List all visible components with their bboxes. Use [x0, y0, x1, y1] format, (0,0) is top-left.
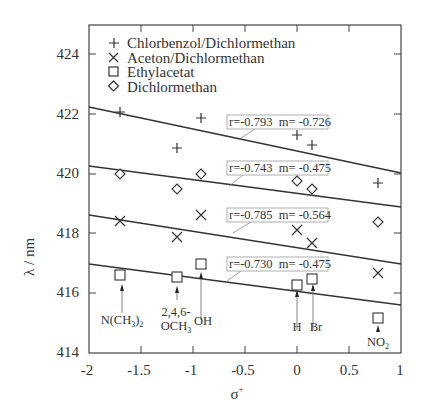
legend-label: Chlorbenzol/Dichlormethan [127, 35, 296, 51]
fit-label-chlorbenzol: r=-0.793 m= -0.726 [229, 115, 331, 129]
fit-label-ethylacetat: r=-0.730 m= -0.475 [229, 257, 331, 271]
legend: Chlorbenzol/Dichlormethan Aceton/Dichlor… [109, 35, 296, 95]
x-marker-icon [109, 53, 118, 62]
label-oh: OH [194, 314, 212, 328]
x-tick-label: -2 [81, 362, 94, 378]
y-axis-label: λ / nm [21, 238, 37, 276]
x-tick-label: 0 [293, 362, 301, 378]
legend-label: Dichlormethan [127, 79, 217, 95]
diamond-marker-icon [109, 81, 119, 91]
x-tick-label: -1 [185, 362, 198, 378]
x-tick-label: 0.5 [340, 362, 359, 378]
arrowheads [120, 272, 380, 332]
label-nme2: N(CH3)2 [101, 313, 144, 329]
label-h: H [292, 320, 301, 334]
y-tick-labels: 424 422 420 418 416 414 [57, 46, 80, 360]
y-tick-label: 416 [57, 284, 80, 300]
label-no2: NO2 [367, 335, 389, 351]
y-tick-label: 420 [57, 165, 80, 181]
label-br: Br [310, 320, 323, 334]
x-axis-label: σ+ [230, 384, 243, 402]
fit-lines [89, 107, 401, 305]
y-tick-label: 422 [57, 106, 80, 122]
fit-label-aceton: r=-0.785 m= -0.564 [229, 208, 332, 222]
y-tick-label: 414 [57, 344, 80, 360]
label-ome-line2: OCH3 [161, 319, 191, 335]
substituent-arrows [122, 276, 313, 330]
x-tick-label: -1.5 [127, 362, 151, 378]
fit-label-dichlormethan: r=-0.743 m= -0.475 [229, 161, 331, 175]
chart: 424 422 420 418 416 414 -2 -1.5 -1 -0.5 … [0, 0, 422, 419]
plus-marker-icon [109, 38, 119, 48]
x-tick-labels: -2 -1.5 -1 -0.5 0 0.5 1 [81, 362, 404, 378]
substituent-labels: N(CH3)2 2,4,6- OCH3 OH H Br NO2 [101, 305, 389, 351]
legend-label: Ethylacetat [127, 64, 195, 80]
x-tick-label: 1 [396, 362, 404, 378]
x-tick-label: -0.5 [231, 362, 255, 378]
square-marker-icon [109, 67, 118, 76]
label-ome-line1: 2,4,6- [161, 305, 190, 319]
y-tick-label: 424 [57, 46, 80, 62]
y-tick-label: 418 [57, 225, 80, 241]
